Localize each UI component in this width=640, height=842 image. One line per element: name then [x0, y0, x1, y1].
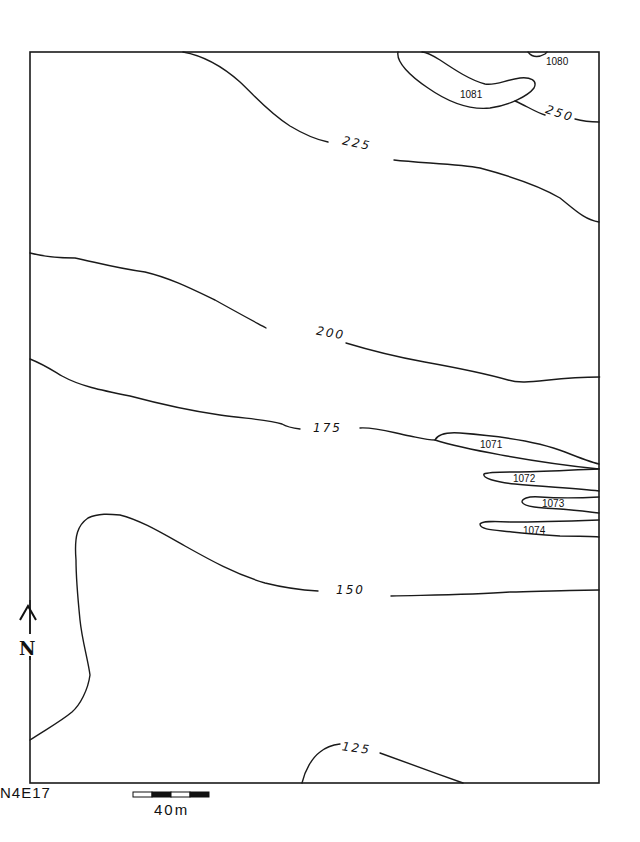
- contour-label-150: 150: [336, 583, 365, 597]
- contour-label-200: 200: [315, 324, 346, 343]
- scale-segment-1: [133, 792, 152, 797]
- contour-label-125: 125: [341, 739, 372, 757]
- contour-200-right: [346, 343, 600, 382]
- feature-label-1081: 1081: [460, 89, 483, 100]
- scale-segment-4: [190, 792, 209, 797]
- feature-1071-outline: [435, 433, 599, 464]
- feature-label-1074: 1074: [523, 525, 546, 536]
- contour-250-right: [575, 119, 599, 122]
- contour-label-175: 175: [313, 421, 342, 435]
- contour-125-left: [302, 744, 340, 783]
- contour-175-left: [30, 359, 300, 429]
- contour-125-right: [380, 753, 463, 783]
- contour-225-left: [183, 52, 328, 142]
- contour-200-left: [30, 253, 266, 328]
- scale-segment-3: [171, 792, 190, 797]
- feature-label-1071: 1071: [480, 439, 503, 450]
- scale-segment-2: [152, 792, 171, 797]
- north-arrow: N: [18, 600, 36, 660]
- contour-map: 250 1080 1081 225 200 175 1071 1072 1073…: [0, 0, 640, 842]
- scale-bar-label: 40m: [154, 801, 189, 818]
- feature-label-1073: 1073: [542, 498, 565, 509]
- contour-225-right: [394, 160, 599, 222]
- north-label: N: [19, 638, 35, 659]
- scale-bar: 40m: [133, 792, 209, 818]
- feature-label-1072: 1072: [513, 473, 536, 484]
- feature-1072-outline: [484, 469, 599, 491]
- contour-150-left: [30, 514, 318, 740]
- feature-label-1080: 1080: [546, 56, 569, 67]
- north-arrow-head-icon: [20, 606, 36, 620]
- contour-label-250: 250: [544, 102, 576, 124]
- contour-label-225: 225: [341, 133, 372, 153]
- contour-150-right: [391, 590, 599, 596]
- contour-250: [515, 101, 545, 115]
- grid-reference-label: N4E17: [0, 784, 51, 801]
- map-frame: [30, 52, 599, 783]
